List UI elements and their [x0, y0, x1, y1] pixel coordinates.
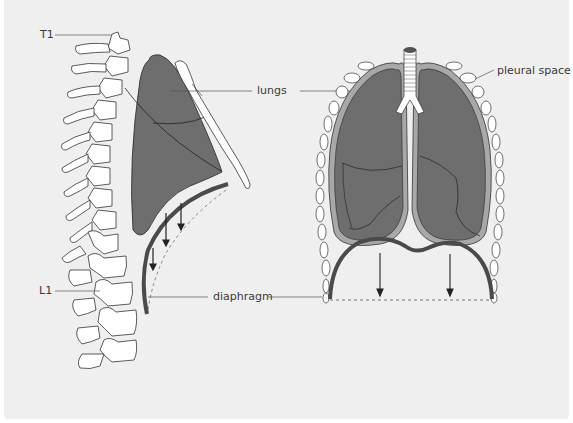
label-pleural-space: pleural space — [497, 64, 571, 77]
frontal-view — [316, 48, 504, 304]
lung-lateral — [125, 55, 222, 235]
label-diaphragm: diaphragm — [213, 290, 273, 303]
spine — [62, 32, 137, 369]
label-t1: T1 — [39, 28, 54, 41]
arrows-frontal — [377, 253, 453, 296]
breathing-diagram: T1 L1 lungs diaphragm pleural space — [0, 0, 573, 423]
lateral-view — [55, 32, 250, 369]
label-lungs: lungs — [257, 84, 287, 97]
label-l1: L1 — [39, 284, 52, 297]
diaphragm-frontal — [330, 239, 492, 299]
